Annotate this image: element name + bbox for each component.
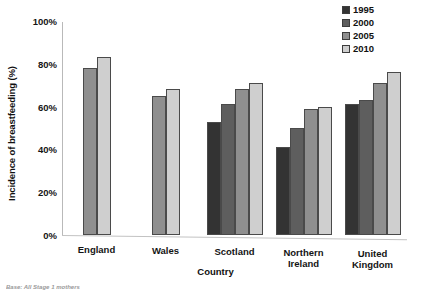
y-axis-tick-label: 40% (17, 145, 57, 155)
legend-swatch-icon (342, 32, 350, 40)
chart-legend: 1995200020052010 (342, 3, 412, 55)
bar-group (200, 21, 269, 235)
legend-swatch-icon (342, 19, 350, 27)
bar-northern-ireland-2010 (318, 107, 332, 235)
x-axis-tick-label: UnitedKingdom (328, 248, 418, 270)
legend-item-1995[interactable]: 1995 (342, 3, 412, 16)
legend-label: 1995 (353, 5, 374, 15)
bar-northern-ireland-2000 (290, 128, 304, 235)
bar-united-kingdom-2000 (359, 100, 373, 235)
bar-scotland-2000 (221, 104, 235, 235)
y-axis-tick-label: 100% (17, 17, 57, 27)
bar-group (269, 21, 338, 235)
legend-swatch-icon (342, 45, 350, 53)
bar-scotland-2005 (235, 89, 249, 235)
bar-england-2005 (83, 68, 97, 235)
legend-label: 2000 (353, 18, 374, 28)
legend-swatch-icon (342, 6, 350, 14)
y-axis-tick-label: 20% (17, 188, 57, 198)
bar-united-kingdom-2010 (387, 72, 401, 235)
y-axis-tick-label: 80% (17, 60, 57, 70)
legend-label: 2010 (353, 44, 374, 54)
y-axis-tick-label: 60% (17, 103, 57, 113)
bar-scotland-1995 (207, 122, 221, 235)
bar-united-kingdom-2005 (373, 83, 387, 235)
bar-scotland-2010 (249, 83, 263, 235)
legend-item-2010[interactable]: 2010 (342, 42, 412, 55)
bar-group (62, 21, 131, 235)
bar-united-kingdom-1995 (345, 104, 359, 235)
bar-northern-ireland-1995 (276, 147, 290, 235)
x-axis-line (62, 235, 407, 240)
y-axis-tick-label: 0% (17, 231, 57, 241)
legend-item-2000[interactable]: 2000 (342, 16, 412, 29)
bar-england-2010 (97, 57, 111, 235)
bar-wales-2010 (166, 89, 180, 235)
bar-northern-ireland-2005 (304, 109, 318, 235)
source-note: Base: All Stage 1 mothers (6, 284, 80, 290)
legend-item-2005[interactable]: 2005 (342, 29, 412, 42)
legend-label: 2005 (353, 31, 374, 41)
bar-wales-2005 (152, 96, 166, 235)
bar-group (131, 21, 200, 235)
